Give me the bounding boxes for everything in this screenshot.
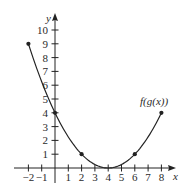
y-tick-label: 5 <box>43 93 49 105</box>
y-tick-label: 10 <box>37 24 49 36</box>
data-point-dot <box>53 111 57 115</box>
y-tick-label: 7 <box>43 65 49 77</box>
y-tick-label: 1 <box>43 148 49 160</box>
x-axis-label: x <box>172 170 178 182</box>
x-tick-label: 7 <box>145 171 151 183</box>
x-tick-label: 2 <box>79 171 85 183</box>
x-tick-label: −1 <box>36 171 48 183</box>
y-tick-label: 3 <box>43 121 49 133</box>
y-tick-label: 8 <box>43 52 49 64</box>
x-tick-label: 4 <box>105 171 111 183</box>
y-tick-label: 4 <box>43 107 49 119</box>
x-tick-label: −2 <box>23 171 35 183</box>
x-tick-label: 1 <box>66 171 72 183</box>
data-point-dot <box>80 152 84 156</box>
chart-container: −2−11234567812345678910 x y f(g(x)) <box>0 0 186 195</box>
data-point-dot <box>159 111 163 115</box>
plot-area: −2−11234567812345678910 x y f(g(x)) <box>0 0 186 195</box>
y-axis-arrow-icon <box>52 13 58 21</box>
x-tick-label: 5 <box>119 171 125 183</box>
data-point-dot <box>26 42 30 46</box>
x-tick-label: 3 <box>92 171 98 183</box>
y-axis-label: y <box>45 12 51 24</box>
data-point-dot <box>133 152 137 156</box>
x-tick-label: 6 <box>132 171 138 183</box>
curve-label: f(g(x)) <box>140 95 168 108</box>
y-tick-label: 2 <box>43 134 49 146</box>
y-tick-label: 9 <box>43 38 49 50</box>
x-tick-label: 8 <box>159 171 165 183</box>
